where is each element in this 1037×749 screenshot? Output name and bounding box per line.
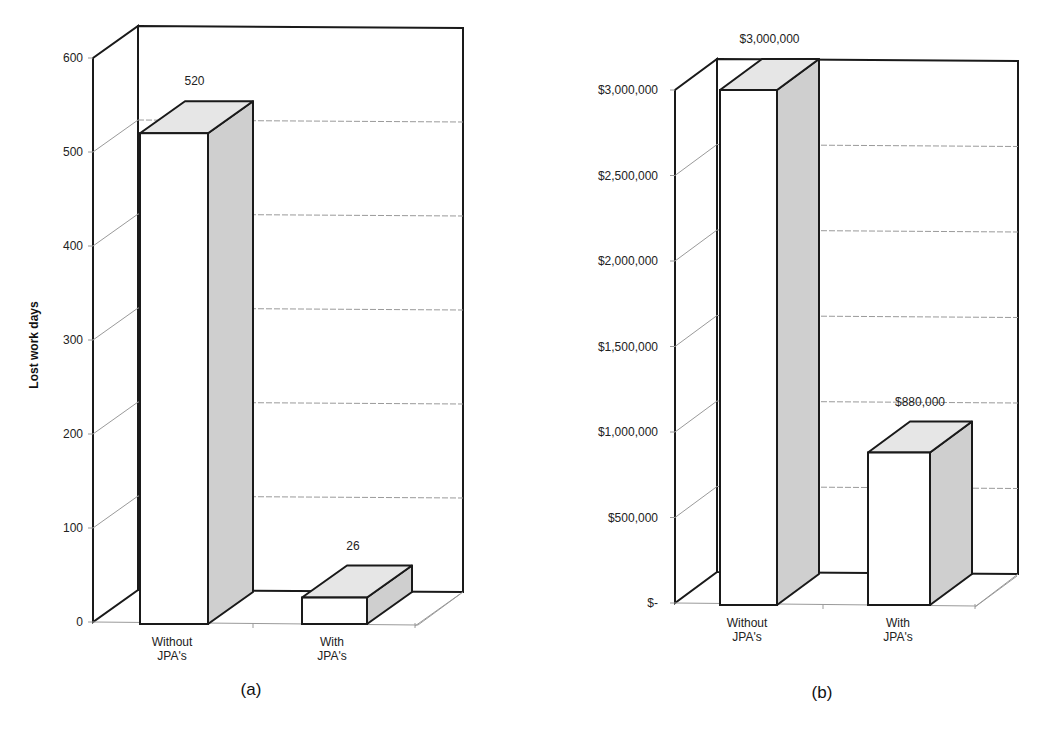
bar-front-face [720, 90, 777, 605]
figure-caption: (a) [241, 680, 262, 699]
y-tick-label: $1,000,000 [598, 425, 658, 439]
bar-front-face [868, 453, 930, 605]
y-tick-label: 200 [63, 427, 83, 441]
y-tick-label: 100 [63, 521, 83, 535]
floor-right-edge [975, 576, 1017, 607]
category-label: With [320, 635, 344, 649]
y-tick-label: $2,500,000 [598, 169, 658, 183]
category-label: JPA's [157, 649, 186, 663]
data-label: $880,000 [895, 395, 945, 409]
y-tick-label: $- [647, 596, 658, 610]
y-tick-label: 400 [63, 239, 83, 253]
chart-a-lost-work-days: 0100200300400500600520WithoutJPA's26With… [27, 26, 463, 699]
chart-b-cost: $-$500,000$1,000,000$1,500,000$2,000,000… [598, 32, 1018, 702]
y-tick-label: 300 [63, 333, 83, 347]
bar-side-face [208, 101, 253, 624]
category-label: With [886, 616, 910, 630]
category-label: JPA's [317, 649, 346, 663]
data-label: 26 [346, 539, 360, 553]
y-tick-label: 600 [63, 51, 83, 65]
y-tick-label: $1,500,000 [598, 340, 658, 354]
y-tick-label: 500 [63, 145, 83, 159]
bar-front-face [302, 598, 367, 624]
bar-side-face [777, 59, 819, 605]
figure-caption: (b) [812, 683, 833, 702]
y-tick-label: $2,000,000 [598, 254, 658, 268]
y-tick-label: 0 [76, 615, 83, 629]
category-label: JPA's [732, 630, 761, 644]
floor-right-edge [415, 594, 460, 626]
data-label: $3,000,000 [739, 32, 799, 46]
y-tick-label: $3,000,000 [598, 83, 658, 97]
bar-front-face [140, 133, 208, 624]
chart-canvas: 0100200300400500600520WithoutJPA's26With… [0, 0, 1037, 749]
y-axis-label: Lost work days [27, 301, 41, 389]
data-label: 520 [184, 74, 204, 88]
y-tick-label: $500,000 [608, 511, 658, 525]
category-label: JPA's [883, 630, 912, 644]
category-label: Without [152, 635, 193, 649]
category-label: Without [727, 616, 768, 630]
